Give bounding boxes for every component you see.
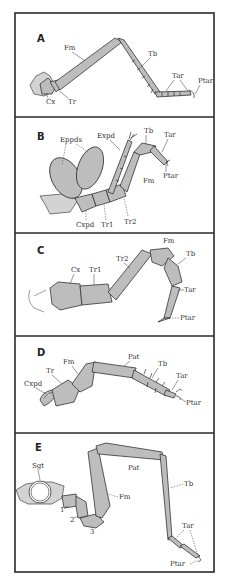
label-tr2-b: Tr2 [124,218,136,226]
figure-canvas: A Fm Tb Tar Ptar Cx Tr B [0,0,225,584]
label-tb-e: Tb [184,480,194,488]
leg-comparison-figure: A Fm Tb Tar Ptar Cx Tr B [0,0,225,584]
label-tar-e: Tar [182,522,194,530]
label-tb-a: Tb [148,50,158,58]
tibia-c [164,258,182,286]
coxa-c [50,282,82,310]
label-fm-e: Fm [119,493,131,501]
patella-e [96,443,164,460]
label-tb-c: Tb [186,250,196,258]
label-tar-d: Tar [176,372,188,380]
tarsus-b [150,146,168,165]
segment-2-e [76,496,88,518]
label-tar-b: Tar [164,131,176,139]
label-cxpd-b: Cxpd [76,221,95,229]
label-ptar-d: Ptar [186,399,202,407]
label-expd-b: Expd [97,132,116,140]
panel-label-d: D [37,347,45,358]
label-segment-1-e: 1 [60,506,64,514]
label-tb-b: Tb [144,127,154,135]
femur-e [88,448,110,518]
pretarsus-claw-e [198,556,201,562]
body-outline-c [29,290,46,312]
label-eppds-b: Eppds [60,136,83,144]
label-cx-a: Cx [46,98,55,106]
label-tar-c: Tar [184,286,196,294]
label-ptar-a: Ptar [198,77,214,85]
trochanter-1-c [80,284,112,305]
label-segment-3-e: 3 [90,528,94,536]
panel-c: C Cx Tr1 Tr2 Fm Tb Tar Ptar [29,237,197,322]
panel-label-e: E [35,442,42,453]
label-tr2-c: Tr2 [116,255,128,263]
label-tr1-b: Tr1 [101,221,113,229]
femur-d [72,362,96,392]
label-tr-a: Tr [68,98,77,106]
tarsus-d [164,390,176,398]
label-segment-2-e: 2 [70,516,74,524]
label-cxpd-d: Cxpd [24,380,43,388]
tarsus-2-e [180,544,200,558]
tibia-e [160,454,172,540]
label-tr1-c: Tr1 [89,266,101,274]
panel-label-a: A [37,33,45,44]
tarsus-c [164,286,180,318]
pretarsus-c [158,318,170,322]
label-tr-d: Tr [46,367,55,375]
label-fm-d: Fm [63,358,75,366]
label-fm-c: Fm [163,237,175,245]
label-pat-e: Pat [128,464,140,472]
panel-d: D Cxpd Tr Fm Pat Tb Tar Ptar [24,347,202,407]
label-ptar-e: Ptar [170,560,186,568]
panel-b: B Eppds Expd Tb Tar Ptar Fm Cxpd [37,127,179,229]
label-tar-a: Tar [172,72,184,80]
segment-ring-inner-e [31,483,49,501]
label-fm-a: Fm [64,44,76,52]
label-ptar-b: Ptar [163,172,179,180]
label-pat-d: Pat [128,353,140,361]
panel-e: E Sgt 1 2 3 Fm Pat Tb Tar Ptar [16,442,201,568]
trochanter-2-c [108,250,152,300]
panel-label-c: C [37,245,44,256]
label-fm-b: Fm [143,177,155,185]
tibia-a [118,38,160,94]
tarsus-a [155,91,191,97]
label-tb-d: Tb [158,360,168,368]
label-ptar-c: Ptar [180,314,196,322]
label-sgt-e: Sgt [32,462,44,470]
patella-d [92,362,136,378]
label-cx-c: Cx [71,266,80,274]
panel-a: A Fm Tb Tar Ptar Cx Tr [30,33,214,106]
panel-label-b: B [37,131,45,142]
